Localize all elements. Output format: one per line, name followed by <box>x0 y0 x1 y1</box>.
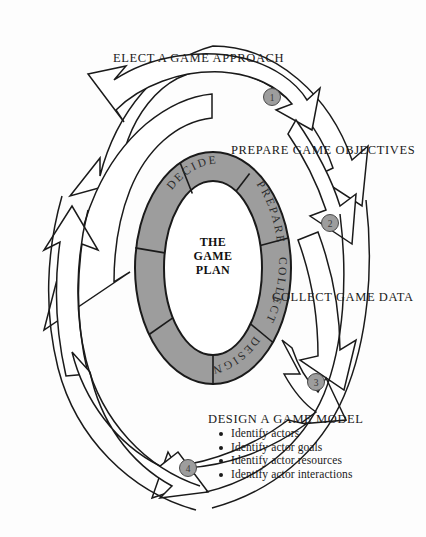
step-badge-3[interactable]: 3 <box>308 374 325 391</box>
ring-center-line-3: PLAN <box>168 263 258 277</box>
ring-center-line-1: THE <box>168 235 258 249</box>
step-label-select-a-game-approach: ELECT A GAME APPROACH <box>113 52 284 65</box>
list-item: Identify actor resources <box>218 454 353 468</box>
step-label-design-a-game-model: DESIGN A GAME MODEL <box>208 413 364 426</box>
list-item: Identify actor goals <box>218 441 353 455</box>
step-badge-4-number: 4 <box>186 464 191 474</box>
ring-center-line-2: GAME <box>168 249 258 263</box>
design-step-bullet-list: Identify actors Identify actor goals Ide… <box>218 427 353 481</box>
step-badge-3-number: 3 <box>314 378 319 388</box>
arrow-band-right-mid <box>298 232 356 390</box>
step-badge-1-number: 1 <box>270 93 275 103</box>
list-item: Identify actors <box>218 427 353 441</box>
step-badge-4[interactable]: 4 <box>180 460 197 477</box>
step-badge-2[interactable]: 2 <box>322 215 339 232</box>
step-label-collect-game-data: COLLECT GAME DATA <box>272 291 414 304</box>
diagram-canvas: DECIDE PREPARE COLLECT DESIGN 1 2 <box>0 0 426 537</box>
ring-center-text: THE GAME PLAN <box>168 235 258 277</box>
step-badge-1[interactable]: 1 <box>264 89 281 106</box>
list-item: Identify actor interactions <box>218 468 353 482</box>
step-label-prepare-game-objectives: PREPARE GAME OBJECTIVES <box>231 144 415 157</box>
step-badge-2-number: 2 <box>328 219 333 229</box>
